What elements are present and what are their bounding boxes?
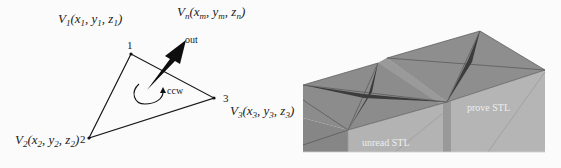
vertex-3-number: 3: [223, 92, 229, 104]
normal-vector-label: Vn(xm, ym, zn): [177, 4, 245, 21]
facet-triangle: [87, 52, 215, 139]
vertex-2-dot: [87, 136, 90, 139]
ccw-label: ccw: [167, 85, 183, 96]
vertex-1-dot: [129, 52, 132, 55]
figure-canvas: V1(x1, y1, z1) Vn(xm, ym, zn) V3(x3, y3,…: [0, 0, 561, 168]
vertex-3-label: V3(x3, y3, z3): [230, 103, 294, 120]
vertex-3-dot: [212, 96, 215, 99]
vertex-2-label: V2(x2, y2, z2): [15, 132, 79, 149]
ccw-rotation-icon: [134, 84, 166, 104]
out-label: out: [185, 34, 198, 45]
stl-mesh: [303, 31, 545, 152]
vertex-2-number: 2: [80, 133, 86, 145]
vertex-1-number: 1: [127, 39, 133, 51]
prove-stl-label: prove STL: [467, 102, 510, 113]
unread-stl-label: unread STL: [362, 137, 410, 148]
vertex-1-label: V1(x1, y1, z1): [58, 11, 122, 28]
